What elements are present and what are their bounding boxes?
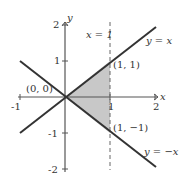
line-y-eq-x <box>20 27 156 133</box>
point-label-1-1: (1, 1) <box>113 59 140 70</box>
region-diagram: y x 2 1 -1 -2 -1 1 2 x = 1 y = x y = −x … <box>0 0 184 184</box>
diagram-canvas: y x 2 1 -1 -2 -1 1 2 x = 1 y = x y = −x … <box>0 0 184 184</box>
label-x-eq-1: x = 1 <box>86 29 113 40</box>
label-y-eq-x: y = x <box>145 35 172 46</box>
point-label-origin: (0, 0) <box>26 83 53 94</box>
y-tick-label-neg2: -2 <box>48 164 58 175</box>
x-tick-label-1: 1 <box>108 101 114 112</box>
y-tick-label-2: 2 <box>53 19 59 30</box>
x-axis-label: x <box>160 91 166 102</box>
label-y-eq-neg-x: y = −x <box>143 146 179 157</box>
y-axis-label: y <box>66 12 73 23</box>
y-tick-label-1: 1 <box>54 55 60 66</box>
point-label-1-neg1: (1, −1) <box>113 122 148 133</box>
x-tick-label-neg1: -1 <box>11 101 21 112</box>
y-tick-label-neg1: -1 <box>48 128 58 139</box>
line-y-eq-neg-x <box>20 61 156 167</box>
x-tick-label-2: 2 <box>153 101 159 112</box>
